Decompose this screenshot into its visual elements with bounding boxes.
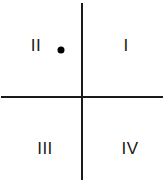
y-axis-line [81, 3, 83, 180]
quadrant-label-iii: III [37, 140, 53, 157]
quadrant-label-ii: II [31, 37, 41, 54]
x-axis-line [1, 96, 163, 98]
quadrant-label-i: I [123, 37, 128, 54]
point-marker [58, 47, 65, 54]
quadrant-label-iv: IV [121, 140, 138, 157]
